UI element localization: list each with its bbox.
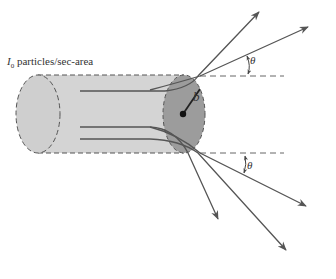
angle-indicator-bottom bbox=[244, 156, 246, 173]
target-center-dot bbox=[180, 111, 186, 117]
impact-parameter-label: b bbox=[193, 89, 200, 105]
cylinder-entry-face bbox=[16, 75, 60, 153]
angle-indicator-top bbox=[247, 56, 249, 74]
flux-subscript: 0 bbox=[11, 62, 15, 70]
scattering-diagram bbox=[0, 0, 336, 279]
angle-label-top: θ bbox=[250, 54, 255, 66]
incident-flux-label: I0 particles/sec-area bbox=[7, 55, 93, 70]
angle-label-bottom: θ bbox=[247, 159, 252, 171]
flux-text: particles/sec-area bbox=[17, 55, 93, 67]
